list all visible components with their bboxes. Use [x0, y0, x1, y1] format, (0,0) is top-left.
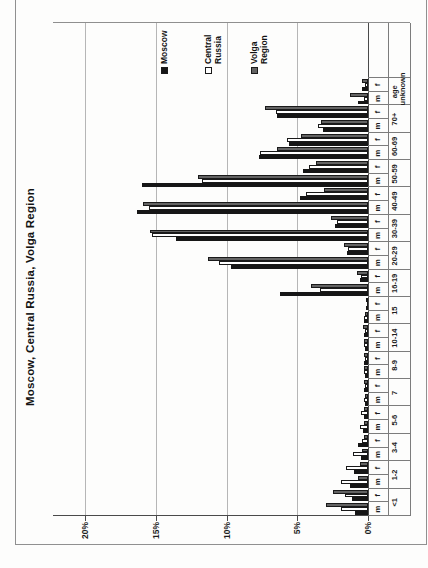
bar-central-russia-<1-m — [341, 507, 368, 511]
sex-label-age unknown-f: f — [368, 78, 388, 92]
y-tick-20% — [85, 516, 86, 521]
bar-volga-region-<1-f — [333, 490, 368, 494]
bar-moscow-16-19-m — [280, 292, 368, 296]
sex-label-70+-f: f — [368, 105, 388, 119]
bar-volga-region-40-49-m — [143, 202, 368, 206]
age-group-label-5-6: 5-6 — [391, 407, 399, 434]
sex-label-7-f: f — [368, 379, 388, 393]
bar-moscow-70+-m — [323, 128, 368, 132]
legend-item-volga-region: Volga Region — [250, 22, 274, 74]
age-group-label-40-49: 40-49 — [391, 188, 399, 215]
y-tick-15% — [156, 516, 157, 521]
bar-moscow-age unknown-m — [358, 101, 368, 105]
y-tick-label-5%: 5% — [292, 522, 302, 554]
bar-volga-region-20-29-m — [208, 257, 368, 261]
legend-label: Volga Region — [250, 35, 269, 64]
bar-central-russia-40-49-f — [306, 192, 368, 196]
legend-item-moscow: Moscow — [160, 22, 184, 74]
age-group-label-60-69: 60-69 — [391, 133, 399, 160]
bar-central-russia-50-59-f — [309, 165, 368, 169]
legend-label: Central Russia — [204, 35, 223, 64]
bar-volga-region-age unknown-m — [350, 93, 368, 97]
bar-central-russia-16-19-m — [320, 288, 368, 292]
sex-label-16-19-f: f — [368, 270, 388, 284]
bar-moscow-<1-f — [352, 497, 368, 501]
sex-label-<1-m: m — [368, 502, 388, 516]
bar-central-russia-40-49-m — [149, 206, 368, 210]
y-tick-label-0%: 0% — [363, 522, 373, 554]
bar-central-russia-70+-f — [276, 110, 368, 114]
gridline-20% — [85, 23, 86, 516]
bar-moscow-1-2-f — [354, 470, 368, 474]
bar-central-russia-5-6-m — [360, 425, 368, 429]
y-tick-0% — [368, 516, 369, 521]
y-tick-label-10%: 10% — [222, 522, 232, 554]
sex-label-3-4-m: m — [368, 448, 388, 462]
bar-moscow-50-59-f — [303, 169, 368, 173]
bar-moscow-1-2-m — [350, 484, 368, 488]
sex-label-5-6-m: m — [368, 420, 388, 434]
age-group-label-16-19: 16-19 — [391, 270, 399, 297]
sex-label-30-39-f: f — [368, 215, 388, 229]
bar-central-russia-30-39-f — [337, 220, 368, 224]
age-group-label-3-4: 3-4 — [391, 434, 399, 461]
age-group-label-30-39: 30-39 — [391, 215, 399, 242]
sex-label-50-59-f: f — [368, 160, 388, 174]
sex-label-16-19-m: m — [368, 283, 388, 297]
sex-label-50-59-m: m — [368, 174, 388, 188]
bar-volga-region-16-19-f — [357, 271, 368, 275]
bar-volga-region-70+-m — [321, 120, 368, 124]
bar-moscow-16-19-f — [360, 278, 368, 282]
bar-central-russia-1-2-m — [341, 480, 368, 484]
bar-volga-region-50-59-m — [198, 175, 368, 179]
bar-volga-region-20-29-f — [344, 243, 368, 247]
sex-label-60-69-m: m — [368, 146, 388, 160]
sex-label-1-2-m: m — [368, 475, 388, 489]
bar-central-russia-5-6-f — [361, 411, 368, 415]
sex-label-1-2-f: f — [368, 461, 388, 475]
age-group-label-7: 7 — [391, 379, 399, 406]
sex-label-15-m: m — [368, 311, 388, 325]
scanned-chart-page: Moscow, Central Russia, Volga Region 0%5… — [0, 0, 428, 568]
age-group-label-15: 15 — [391, 297, 399, 324]
sex-label-age unknown-m: m — [368, 92, 388, 106]
sex-label-3-4-f: f — [368, 434, 388, 448]
bar-central-russia-70+-m — [318, 124, 368, 128]
bar-central-russia-60-69-f — [287, 138, 368, 142]
bar-volga-region-40-49-f — [324, 188, 368, 192]
bar-central-russia-1-2-f — [346, 466, 368, 470]
bar-volga-region-70+-f — [265, 106, 368, 110]
age-group-label-<1: <1 — [391, 489, 399, 516]
bar-moscow-60-69-m — [259, 155, 368, 159]
sex-label-15-f: f — [368, 297, 388, 311]
age-group-label-8-9: 8-9 — [391, 352, 399, 379]
bar-central-russia-<1-f — [345, 494, 368, 498]
sex-label-8-9-m: m — [368, 365, 388, 379]
bar-volga-region-60-69-m — [277, 147, 368, 151]
legend-swatch-icon — [205, 67, 212, 74]
sex-label-7-m: m — [368, 393, 388, 407]
age-group-label-70+: 70+ — [391, 105, 399, 132]
chart-title: Moscow, Central Russia, Volga Region — [24, 78, 36, 516]
y-tick-label-20%: 20% — [80, 522, 90, 554]
age-group-label-10-14: 10-14 — [391, 324, 399, 351]
bar-volga-region-<1-m — [326, 503, 368, 507]
bar-volga-region-1-2-m — [358, 476, 368, 480]
sex-label-60-69-f: f — [368, 133, 388, 147]
age-table-mid-line — [388, 23, 389, 516]
sex-label-40-49-f: f — [368, 188, 388, 202]
bar-moscow-3-4-f — [358, 443, 368, 447]
sex-label-5-6-f: f — [368, 407, 388, 421]
y-axis-line — [53, 515, 410, 516]
gridline-15% — [156, 23, 157, 516]
sex-label-20-29-m: m — [368, 256, 388, 270]
bar-volga-region-50-59-f — [316, 161, 368, 165]
bar-volga-region-30-39-m — [150, 230, 368, 234]
legend-label: Moscow — [160, 30, 170, 64]
bar-central-russia-30-39-m — [152, 233, 368, 237]
legend-item-central-russia: Central Russia — [204, 22, 228, 74]
age-group-label-20-29: 20-29 — [391, 242, 399, 269]
y-tick-10% — [227, 516, 228, 521]
bar-moscow-30-39-m — [176, 237, 368, 241]
bar-central-russia-20-29-f — [348, 247, 368, 251]
